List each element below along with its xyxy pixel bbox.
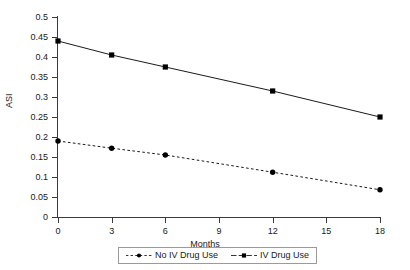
data-point-square-marker bbox=[377, 114, 382, 119]
x-tick-label: 0 bbox=[43, 227, 73, 236]
series-line bbox=[58, 141, 380, 190]
data-point-circle-marker bbox=[270, 170, 275, 175]
y-tick-label: 0.35 bbox=[30, 73, 48, 82]
data-point-square-marker bbox=[109, 52, 114, 57]
legend-swatch-dashed-circle-icon bbox=[126, 251, 152, 260]
y-tick-label: 0.2 bbox=[35, 133, 48, 142]
y-tick-label: 0.4 bbox=[35, 53, 48, 62]
y-tick-label: 0.45 bbox=[30, 33, 48, 42]
y-tick-label: 0.5 bbox=[35, 13, 48, 22]
y-axis-title: ASI bbox=[5, 93, 14, 108]
x-tick-label: 12 bbox=[258, 227, 288, 236]
y-tick-label: 0.15 bbox=[30, 153, 48, 162]
series-no-iv-drug-use bbox=[55, 138, 382, 192]
x-tick-label: 6 bbox=[150, 227, 180, 236]
legend-swatch-solid-square-icon bbox=[231, 251, 257, 260]
plot-svg bbox=[58, 17, 380, 217]
x-tick-mark bbox=[380, 217, 381, 223]
data-point-circle-marker bbox=[109, 146, 114, 151]
legend-item-no-iv-drug-use[interactable]: No IV Drug Use bbox=[126, 251, 218, 260]
y-tick-label: 0.25 bbox=[30, 113, 48, 122]
y-tick-label: 0.05 bbox=[30, 193, 48, 202]
legend-label-no-iv-drug-use: No IV Drug Use bbox=[155, 251, 218, 260]
data-point-square-marker bbox=[270, 88, 275, 93]
x-tick-mark bbox=[273, 217, 274, 223]
chart-container: ASI 00.050.10.150.20.250.30.350.40.450.5… bbox=[0, 0, 410, 270]
x-tick-mark bbox=[326, 217, 327, 223]
x-tick-mark bbox=[58, 217, 59, 223]
x-tick-label: 3 bbox=[97, 227, 127, 236]
legend-label-iv-drug-use: IV Drug Use bbox=[260, 251, 309, 260]
x-tick-label: 9 bbox=[204, 227, 234, 236]
legend-item-iv-drug-use[interactable]: IV Drug Use bbox=[231, 251, 309, 260]
chart-legend: No IV Drug Use IV Drug Use bbox=[118, 247, 317, 264]
x-tick-label: 18 bbox=[365, 227, 395, 236]
data-point-circle-marker bbox=[55, 138, 60, 143]
plot-area bbox=[58, 17, 380, 217]
series-line bbox=[58, 41, 380, 117]
y-tick-label: 0 bbox=[43, 213, 48, 222]
x-tick-label: 15 bbox=[311, 227, 341, 236]
y-tick-label: 0.3 bbox=[35, 93, 48, 102]
series-iv-drug-use bbox=[55, 38, 382, 119]
x-tick-mark bbox=[112, 217, 113, 223]
x-tick-mark bbox=[219, 217, 220, 223]
y-tick-label: 0.1 bbox=[35, 173, 48, 182]
data-point-square-marker bbox=[163, 64, 168, 69]
data-point-circle-marker bbox=[377, 187, 382, 192]
data-point-circle-marker bbox=[163, 152, 168, 157]
x-tick-mark bbox=[165, 217, 166, 223]
data-point-square-marker bbox=[55, 38, 60, 43]
